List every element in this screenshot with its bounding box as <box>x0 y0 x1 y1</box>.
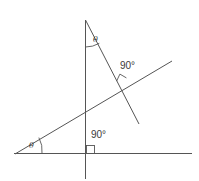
theta-top-label: θ <box>93 36 98 44</box>
transversal-line <box>15 61 172 154</box>
geometry-canvas <box>0 0 199 181</box>
geometry-figure: θ θ 90° 90° <box>0 0 199 181</box>
right-angle-lower-label: 90° <box>91 130 106 140</box>
right-angle-square-lower <box>87 146 95 154</box>
theta-bottom-label: θ <box>29 142 34 150</box>
right-angle-square-upper <box>117 74 127 81</box>
right-angle-upper-label: 90° <box>120 61 135 71</box>
